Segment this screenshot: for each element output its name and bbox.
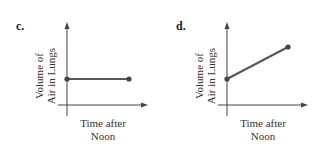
chart-panel-c: c. Volume of Air in Lungs Time after Noo…: [0, 0, 160, 151]
y-axis-label: Volume of Air in Lungs: [193, 31, 217, 121]
data-line: [227, 47, 288, 79]
x-axis-label: Time after Noon: [223, 117, 303, 142]
y-axis-arrow-icon: [225, 22, 230, 29]
y-axis-label: Volume of Air in Lungs: [33, 31, 57, 121]
x-label-line: Noon: [223, 130, 303, 143]
data-point: [285, 44, 290, 49]
y-label-line: Air in Lungs: [205, 31, 217, 121]
chart-panel-d: d. Volume of Air in Lungs Time after Noo…: [160, 0, 319, 151]
data-point: [64, 76, 69, 81]
y-label-line: Volume of: [193, 31, 205, 121]
data-point: [126, 76, 131, 81]
y-label-line: Air in Lungs: [45, 31, 57, 121]
x-axis-arrow-icon: [301, 103, 308, 108]
x-label-line: Noon: [63, 130, 143, 143]
y-axis-arrow-icon: [65, 22, 70, 29]
y-label-line: Volume of: [33, 31, 45, 121]
x-axis-arrow-icon: [141, 103, 148, 108]
x-label-line: Time after: [223, 117, 303, 130]
x-label-line: Time after: [63, 117, 143, 130]
x-axis-label: Time after Noon: [63, 117, 143, 142]
data-point: [224, 76, 229, 81]
